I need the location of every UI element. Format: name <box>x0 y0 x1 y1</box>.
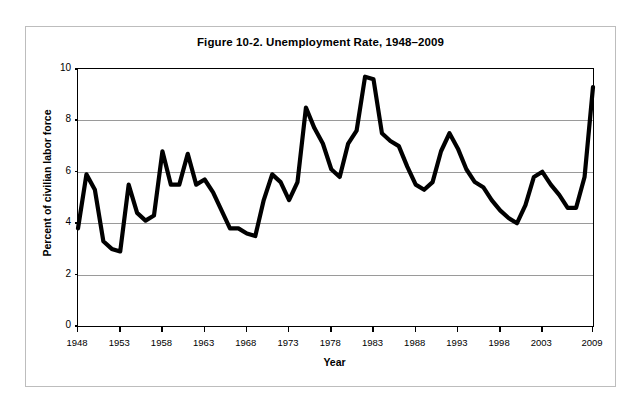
y-tick-label-0: 0 <box>47 320 71 330</box>
x-tick-label-1983: 1983 <box>350 337 394 348</box>
x-tick-mark-1998 <box>499 327 500 332</box>
x-tick-mark-2003 <box>541 327 542 332</box>
y-tick-label-4: 4 <box>47 217 71 227</box>
x-tick-label-1958: 1958 <box>139 337 183 348</box>
x-tick-mark-1993 <box>457 327 458 332</box>
y-tick-label-6: 6 <box>47 166 71 176</box>
x-tick-mark-1948 <box>77 327 78 332</box>
x-tick-mark-1983 <box>372 327 373 332</box>
x-tick-label-1988: 1988 <box>393 337 437 348</box>
x-axis-ticks: 1948195319581963196819731978198319881993… <box>77 327 592 349</box>
x-tick-label-1963: 1963 <box>182 337 226 348</box>
plot-area <box>77 68 594 327</box>
x-tick-label-2009: 2009 <box>570 337 614 348</box>
x-tick-label-1978: 1978 <box>308 337 352 348</box>
y-tick-label-10: 10 <box>47 63 71 73</box>
x-tick-label-1948: 1948 <box>55 337 99 348</box>
x-tick-mark-1953 <box>119 327 120 332</box>
x-tick-label-1968: 1968 <box>224 337 268 348</box>
figure-root: Figure 10-2. Unemployment Rate, 1948–200… <box>0 0 638 409</box>
y-axis-ticks: 0246810 <box>45 68 71 325</box>
x-tick-mark-1958 <box>161 327 162 332</box>
y-tick-label-2: 2 <box>47 269 71 279</box>
x-tick-label-1993: 1993 <box>435 337 479 348</box>
x-tick-label-1953: 1953 <box>97 337 141 348</box>
x-tick-mark-2009 <box>592 327 593 332</box>
unemployment-line-series <box>78 69 593 326</box>
x-tick-label-1998: 1998 <box>477 337 521 348</box>
unemployment-polyline <box>78 77 593 252</box>
x-tick-mark-1963 <box>204 327 205 332</box>
x-tick-mark-1973 <box>288 327 289 332</box>
x-tick-mark-1988 <box>415 327 416 332</box>
x-tick-label-1973: 1973 <box>266 337 310 348</box>
x-axis-title: Year <box>77 356 592 368</box>
x-tick-label-2003: 2003 <box>519 337 563 348</box>
y-tick-label-8: 8 <box>47 114 71 124</box>
chart-title: Figure 10-2. Unemployment Rate, 1948–200… <box>25 36 616 48</box>
x-tick-mark-1978 <box>330 327 331 332</box>
x-tick-mark-1968 <box>246 327 247 332</box>
